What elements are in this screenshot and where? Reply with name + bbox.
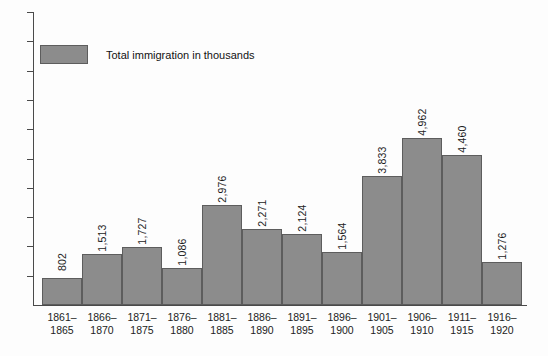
y-axis-tick <box>27 188 33 189</box>
y-axis-tick <box>27 246 33 247</box>
x-axis-label: 1886–1890 <box>242 311 282 337</box>
bar-group: 4,460 <box>442 12 482 305</box>
bar-group: 802 <box>42 12 82 305</box>
bar-group: 1,564 <box>322 12 362 305</box>
bar <box>402 138 442 305</box>
x-axis-label: 1916–1920 <box>482 311 522 337</box>
x-axis-label: 1906–1910 <box>402 311 442 337</box>
x-axis-line <box>33 305 527 306</box>
x-axis-label: 1871–1875 <box>122 311 162 337</box>
x-axis-label: 1896–1900 <box>322 311 362 337</box>
x-axis-label: 1876–1880 <box>162 311 202 337</box>
bar-group: 1,727 <box>122 12 162 305</box>
bar-group: 2,976 <box>202 12 242 305</box>
bar <box>162 268 202 305</box>
y-axis-tick <box>27 41 33 42</box>
bar <box>82 254 122 305</box>
y-axis-line <box>33 12 34 305</box>
bar-group: 2,124 <box>282 12 322 305</box>
x-axis-label-group: 1861–18651866–18701871–18751876–18801881… <box>42 311 522 351</box>
y-axis-tick <box>27 159 33 160</box>
x-axis-label: 1911–1915 <box>442 311 482 337</box>
bar <box>242 229 282 305</box>
x-axis-label: 1901–1905 <box>362 311 402 337</box>
bar <box>202 205 242 305</box>
bar-group: 2,271 <box>242 12 282 305</box>
x-axis-label: 1881–1885 <box>202 311 242 337</box>
x-axis-label: 1861–1865 <box>42 311 82 337</box>
bar <box>282 234 322 305</box>
y-axis-tick <box>27 12 33 13</box>
bar <box>442 155 482 305</box>
bar <box>322 252 362 305</box>
x-axis-label: 1866–1870 <box>82 311 122 337</box>
bar-group: 1,276 <box>482 12 522 305</box>
bar-group: 1,513 <box>82 12 122 305</box>
y-axis-tick <box>27 276 33 277</box>
bar-group: 3,833 <box>362 12 402 305</box>
plot-area: 8021,5131,7271,0862,9762,2712,1241,5643,… <box>42 12 522 305</box>
x-axis-label: 1891–1895 <box>282 311 322 337</box>
bar <box>122 247 162 305</box>
y-axis-tick <box>27 100 33 101</box>
bar <box>42 278 82 305</box>
immigration-bar-chart: Total immigration in thousands 8021,5131… <box>0 0 548 356</box>
bar-group: 4,962 <box>402 12 442 305</box>
bar <box>362 176 402 305</box>
y-axis-tick <box>27 71 33 72</box>
y-axis-tick <box>27 217 33 218</box>
bar-group: 1,086 <box>162 12 202 305</box>
bar <box>482 262 522 305</box>
y-axis-tick <box>27 129 33 130</box>
